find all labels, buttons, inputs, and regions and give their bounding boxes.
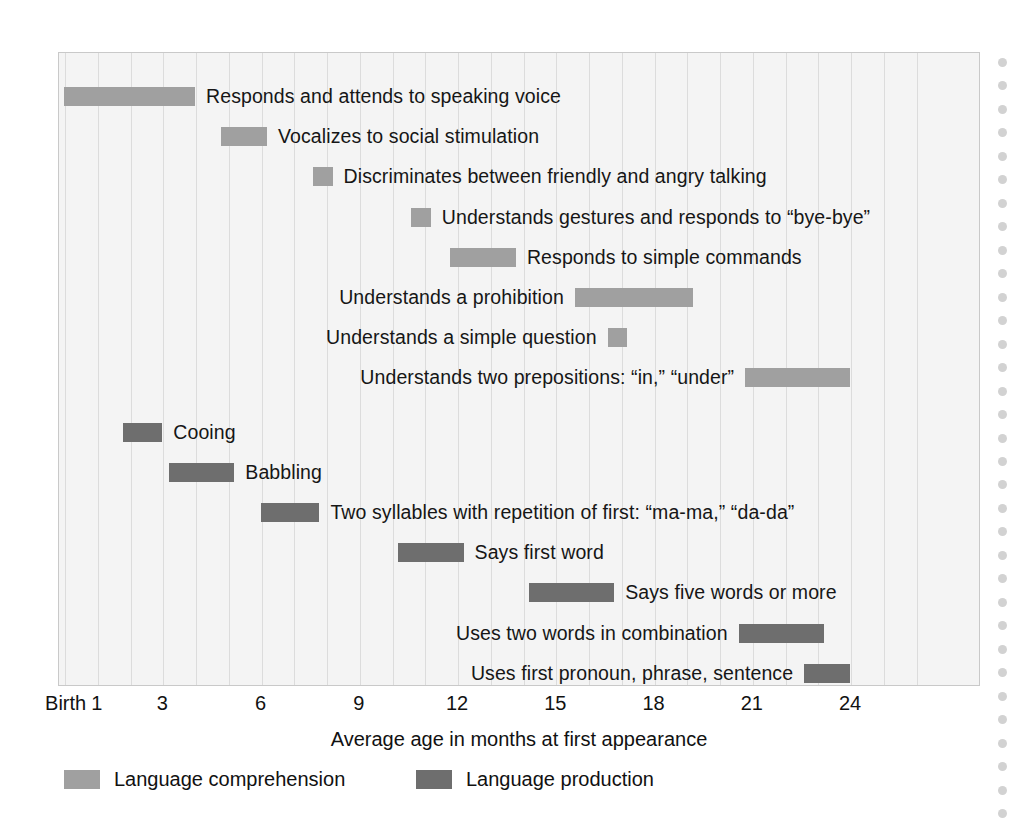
- edge-dot-icon: [998, 316, 1007, 325]
- edge-dot-icon: [998, 457, 1007, 466]
- edge-dot-icon: [998, 598, 1007, 607]
- edge-dot-icon: [998, 81, 1007, 90]
- chart-page: Responds and attends to speaking voiceVo…: [0, 0, 1026, 837]
- bar-row[interactable]: Says five words or more: [58, 577, 980, 607]
- bar-row[interactable]: Babbling: [58, 457, 980, 487]
- bar-row-label: Understands a simple question: [326, 324, 597, 350]
- chart-legend: Language comprehension Language producti…: [58, 768, 980, 808]
- edge-dot-icon: [998, 692, 1007, 701]
- x-tick-label: 18: [642, 690, 664, 716]
- bar-row[interactable]: Says first word: [58, 537, 980, 567]
- edge-dot-icon: [998, 645, 1007, 654]
- bar-row[interactable]: Understands a simple question: [58, 322, 980, 352]
- x-tick-label: Birth: [45, 690, 86, 716]
- edge-dot-icon: [998, 739, 1007, 748]
- edge-dot-icon: [998, 504, 1007, 513]
- bar-row[interactable]: Responds and attends to speaking voice: [58, 81, 980, 111]
- bar-row-label: Uses first pronoun, phrase, sentence: [471, 660, 793, 686]
- edge-dot-icon: [998, 105, 1007, 114]
- bar-row-label: Says five words or more: [625, 579, 836, 605]
- edge-dot-icon: [998, 621, 1007, 630]
- edge-dot-icon: [998, 668, 1007, 677]
- timeline-bar[interactable]: [411, 208, 431, 227]
- timeline-bar[interactable]: [608, 328, 628, 347]
- timeline-bar[interactable]: [745, 368, 850, 387]
- timeline-bar[interactable]: [450, 248, 516, 267]
- bar-row[interactable]: Discriminates between friendly and angry…: [58, 161, 980, 191]
- legend-swatch-comprehension-icon: [64, 770, 100, 789]
- bar-row-label: Two syllables with repetition of first: …: [330, 499, 794, 525]
- edge-dot-icon: [998, 128, 1007, 137]
- legend-label-production: Language production: [466, 768, 654, 791]
- bar-row-label: Vocalizes to social stimulation: [278, 123, 539, 149]
- x-tick-label: 21: [741, 690, 763, 716]
- bar-row-label: Responds to simple commands: [527, 244, 802, 270]
- x-axis-title: Average age in months at first appearanc…: [58, 728, 980, 751]
- legend-item-comprehension[interactable]: Language comprehension: [64, 768, 345, 791]
- bar-row-label: Discriminates between friendly and angry…: [344, 163, 767, 189]
- x-tick-label: 24: [839, 690, 861, 716]
- timeline-bar[interactable]: [739, 624, 824, 643]
- bar-row[interactable]: Understands a prohibition: [58, 282, 980, 312]
- bar-row[interactable]: Uses two words in combination: [58, 618, 980, 648]
- x-tick-label: 3: [157, 690, 168, 716]
- edge-dot-icon: [998, 152, 1007, 161]
- edge-dot-icon: [998, 175, 1007, 184]
- x-tick-label: 9: [353, 690, 364, 716]
- x-tick-label: 15: [544, 690, 566, 716]
- edge-dot-icon: [998, 762, 1007, 771]
- edge-dot-icon: [998, 551, 1007, 560]
- edge-dot-icon: [998, 246, 1007, 255]
- bar-row-label: Uses two words in combination: [456, 620, 728, 646]
- bar-rows: Responds and attends to speaking voiceVo…: [58, 52, 980, 686]
- page-edge-dot-decoration: [998, 58, 1008, 818]
- bar-row[interactable]: Two syllables with repetition of first: …: [58, 497, 980, 527]
- timeline-bar[interactable]: [123, 423, 162, 442]
- timeline-bar[interactable]: [529, 583, 614, 602]
- bar-row[interactable]: Vocalizes to social stimulation: [58, 121, 980, 151]
- edge-dot-icon: [998, 574, 1007, 583]
- edge-dot-icon: [998, 340, 1007, 349]
- x-tick-label: 6: [255, 690, 266, 716]
- x-tick-label: 12: [446, 690, 468, 716]
- bar-row-label: Babbling: [245, 459, 322, 485]
- edge-dot-icon: [998, 715, 1007, 724]
- timeline-bar[interactable]: [169, 463, 235, 482]
- timeline-bar[interactable]: [804, 664, 850, 683]
- timeline-bar[interactable]: [261, 503, 320, 522]
- timeline-bar[interactable]: [398, 543, 464, 562]
- x-tick-label: 1: [91, 690, 102, 716]
- bar-row[interactable]: Understands gestures and responds to “by…: [58, 202, 980, 232]
- bar-row-label: Responds and attends to speaking voice: [206, 83, 561, 109]
- edge-dot-icon: [998, 786, 1007, 795]
- edge-dot-icon: [998, 809, 1007, 818]
- bar-row-label: Cooing: [173, 419, 235, 445]
- edge-dot-icon: [998, 199, 1007, 208]
- edge-dot-icon: [998, 363, 1007, 372]
- edge-dot-icon: [998, 58, 1007, 67]
- edge-dot-icon: [998, 222, 1007, 231]
- legend-item-production[interactable]: Language production: [416, 768, 654, 791]
- timeline-bar[interactable]: [64, 87, 195, 106]
- bar-row-label: Says first word: [475, 539, 604, 565]
- legend-label-comprehension: Language comprehension: [114, 768, 345, 791]
- edge-dot-icon: [998, 527, 1007, 536]
- bar-row[interactable]: Uses first pronoun, phrase, sentence: [58, 658, 980, 688]
- legend-swatch-production-icon: [416, 770, 452, 789]
- edge-dot-icon: [998, 410, 1007, 419]
- x-axis-ticks: Birth13691215182124: [58, 690, 980, 724]
- edge-dot-icon: [998, 480, 1007, 489]
- edge-dot-icon: [998, 293, 1007, 302]
- bar-row[interactable]: Understands two prepositions: “in,” “und…: [58, 362, 980, 392]
- timeline-bar[interactable]: [221, 127, 267, 146]
- edge-dot-icon: [998, 387, 1007, 396]
- timeline-bar[interactable]: [575, 288, 693, 307]
- bar-row-label: Understands a prohibition: [339, 284, 564, 310]
- edge-dot-icon: [998, 269, 1007, 278]
- bar-row-label: Understands two prepositions: “in,” “und…: [360, 364, 734, 390]
- bar-row[interactable]: Responds to simple commands: [58, 242, 980, 272]
- bar-row-label: Understands gestures and responds to “by…: [442, 204, 870, 230]
- edge-dot-icon: [998, 434, 1007, 443]
- bar-row[interactable]: Cooing: [58, 417, 980, 447]
- timeline-bar[interactable]: [313, 167, 333, 186]
